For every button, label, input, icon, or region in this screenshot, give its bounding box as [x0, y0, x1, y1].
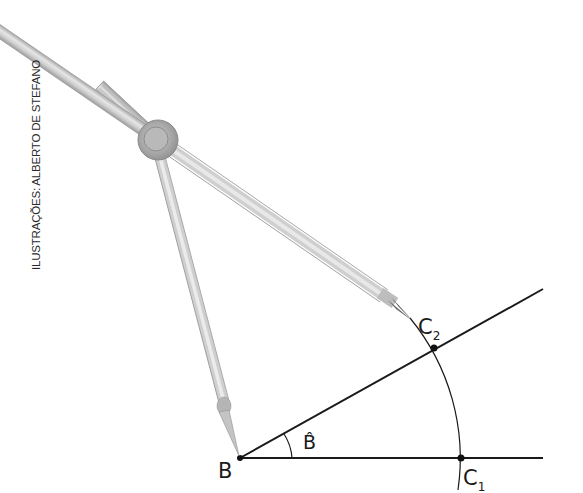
angle-b-label: B̂ — [303, 431, 316, 453]
point-c2-dot — [431, 345, 438, 352]
point-c1-label: C1 — [463, 466, 485, 493]
point-c1-subscript: 1 — [478, 480, 486, 493]
compass-arc — [410, 318, 460, 490]
illustration-credit: ILUSTRAÇÕES: ALBERTO DE STEFANO — [30, 60, 42, 270]
compass-icon — [0, 0, 414, 456]
point-c2-main: C — [418, 315, 433, 339]
angle-marker-arc — [284, 434, 292, 458]
vertex-b-label: B — [218, 459, 232, 483]
ray-upper — [240, 289, 543, 458]
diagram-canvas: ILUSTRAÇÕES: ALBERTO DE STEFANO — [0, 0, 583, 493]
geometry-figure: B B̂ C1 C2 — [0, 0, 583, 493]
point-c2-label: C2 — [418, 315, 440, 343]
vertex-b-dot — [237, 455, 243, 461]
point-c1-main: C — [463, 466, 478, 490]
point-c2-subscript: 2 — [433, 329, 441, 343]
point-c1-dot — [458, 455, 465, 462]
